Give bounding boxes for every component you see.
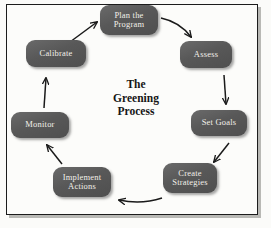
arrow-calibrate-to-plan xyxy=(70,22,97,42)
node-set-goals[interactable]: Set Goals xyxy=(191,110,247,136)
greening-process-diagram: Plan the Program Assess Set Goals Create… xyxy=(0,0,271,228)
node-calibrate[interactable]: Calibrate xyxy=(26,40,86,67)
arrow-plan-to-assess xyxy=(161,18,191,37)
arrow-implement-to-monitor xyxy=(47,145,62,164)
node-set-goals-line-1: Set Goals xyxy=(202,118,237,128)
node-plan-line-2: Program xyxy=(114,20,145,30)
center-title-line-2: Greening xyxy=(88,92,184,106)
node-create-line-2: Strategies xyxy=(172,178,208,188)
arrow-monitor-to-calibrate xyxy=(44,78,46,108)
node-assess-line-1: Assess xyxy=(194,50,218,60)
node-implement-actions[interactable]: Implement Actions xyxy=(53,167,111,197)
center-title-line-1: The xyxy=(88,78,184,92)
node-monitor[interactable]: Monitor xyxy=(11,112,69,138)
arrow-assess-to-goals xyxy=(224,75,226,104)
node-monitor-line-1: Monitor xyxy=(25,120,54,130)
node-implement-line-2: Actions xyxy=(63,182,102,192)
node-assess[interactable]: Assess xyxy=(180,41,232,68)
node-calibrate-line-1: Calibrate xyxy=(40,49,73,59)
node-create-strategies[interactable]: Create Strategies xyxy=(163,163,217,193)
arrow-goals-to-create xyxy=(214,143,229,162)
arrow-create-to-implement xyxy=(119,198,162,202)
diagram-center-title: The Greening Process xyxy=(88,78,184,119)
node-plan-the-program[interactable]: Plan the Program xyxy=(100,5,158,35)
center-title-line-3: Process xyxy=(88,105,184,119)
